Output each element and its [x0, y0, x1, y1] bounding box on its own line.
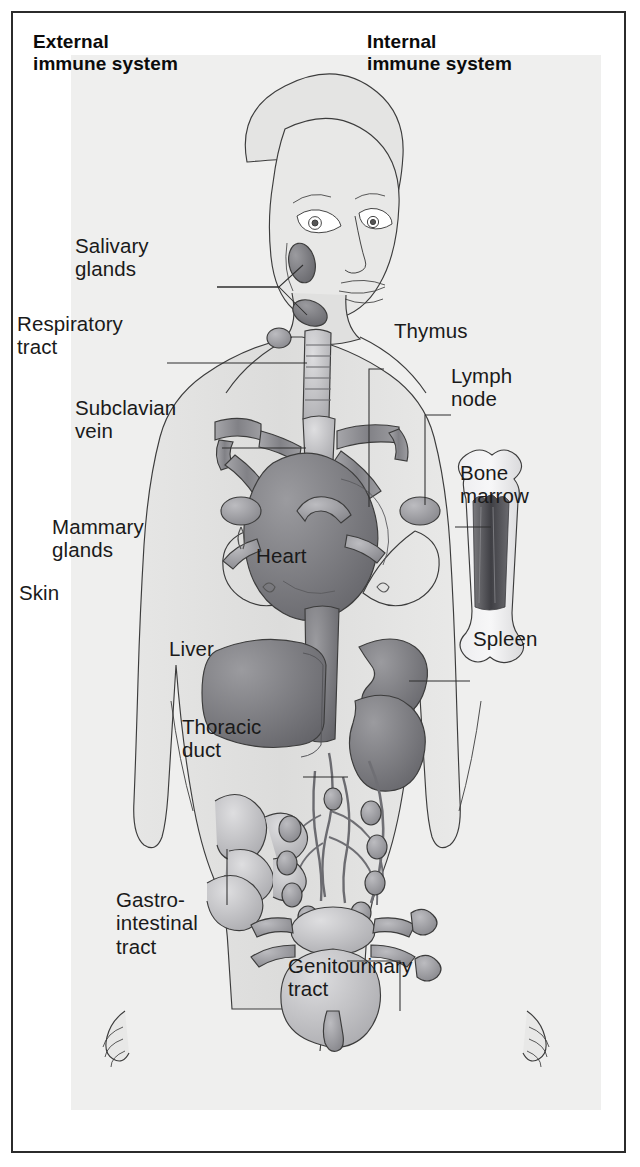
label-bone-marrow: Bone marrow: [460, 461, 529, 508]
header-internal-immune-system: Internal immune system: [367, 31, 512, 76]
label-mammary-glands: Mammary glands: [52, 515, 144, 562]
label-liver: Liver: [169, 637, 214, 660]
label-gastro-intestinal-tract: Gastro- intestinal tract: [116, 888, 198, 958]
label-spleen: Spleen: [473, 627, 537, 650]
kidney-cluster: [349, 695, 425, 791]
left-hand: [103, 1011, 129, 1067]
right-hand: [523, 1011, 549, 1067]
diagram-page: External immune system Internal immune s…: [0, 0, 640, 1167]
label-subclavian-vein: Subclavian vein: [75, 396, 176, 443]
label-heart: Heart: [256, 544, 307, 567]
label-lymph-node: Lymph node: [451, 364, 512, 411]
label-salivary-glands: Salivary glands: [75, 234, 149, 281]
diagram-frame: External immune system Internal immune s…: [11, 11, 626, 1153]
label-respiratory-tract: Respiratory tract: [17, 312, 123, 359]
label-thoracic-duct: Thoracic duct: [182, 715, 261, 762]
label-genitourinary-tract: Genitourinary tract: [288, 954, 412, 1001]
header-external-immune-system: External immune system: [33, 31, 178, 76]
label-skin: Skin: [19, 581, 59, 604]
label-thymus: Thymus: [394, 319, 468, 342]
lymph-node-organ: [400, 497, 440, 525]
